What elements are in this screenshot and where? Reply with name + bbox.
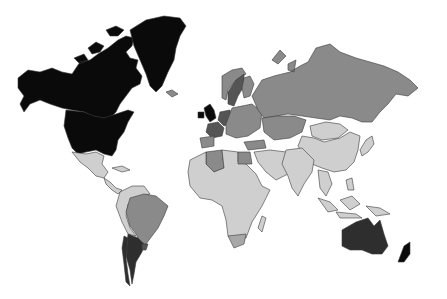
region-southeast-asia[interactable] [318, 170, 362, 218]
region-papua-new-guinea[interactable] [366, 206, 390, 216]
region-south-africa[interactable] [228, 234, 246, 248]
region-egypt[interactable] [238, 152, 252, 164]
region-finland[interactable] [242, 76, 254, 98]
region-japan[interactable] [360, 136, 374, 156]
world-map [0, 0, 447, 299]
region-ireland[interactable] [198, 112, 204, 118]
region-mexico[interactable] [72, 152, 108, 178]
region-turkey[interactable] [244, 140, 266, 150]
region-iceland[interactable] [166, 90, 178, 97]
region-canada[interactable] [18, 26, 142, 118]
region-kazakhstan-central-asia[interactable] [262, 116, 306, 140]
region-australia[interactable] [342, 218, 388, 254]
region-usa[interactable] [64, 110, 134, 156]
region-africa-rest[interactable] [188, 150, 270, 244]
region-france[interactable] [206, 122, 224, 138]
region-eastern-europe[interactable] [226, 104, 262, 138]
region-madagascar[interactable] [258, 216, 266, 232]
region-india-south-asia[interactable] [282, 148, 314, 196]
region-new-zealand[interactable] [398, 242, 410, 262]
region-russia[interactable] [252, 44, 418, 122]
region-uruguay[interactable] [142, 244, 148, 250]
region-uk[interactable] [204, 104, 216, 122]
region-spain[interactable] [200, 136, 214, 148]
